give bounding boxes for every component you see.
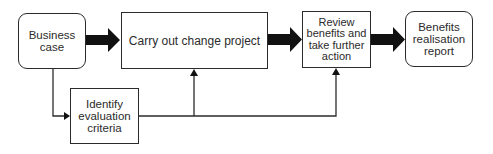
node-business-case-label: Business case [29, 29, 76, 53]
node-benefits-report-label: Benefits realisation report [413, 21, 465, 57]
line-business-to-identify [53, 69, 64, 116]
node-carry-out-label: Carry out change project [129, 35, 260, 47]
line-identify-to-review [139, 75, 336, 116]
arrowhead-into-carry [190, 69, 198, 76]
thick-arrow-carry-to-review [268, 27, 302, 52]
node-business-case: Business case [18, 13, 86, 69]
node-carry-out-change-project: Carry out change project [121, 12, 268, 69]
node-benefits-realisation-report: Benefits realisation report [405, 11, 473, 67]
node-review-benefits: Review benefits and take further action [302, 11, 371, 68]
thick-arrow-review-to-report [371, 27, 405, 52]
node-identify-label: Identify evaluation criteria [78, 98, 130, 134]
node-review-label: Review benefits and take further action [307, 17, 367, 63]
node-identify-evaluation-criteria: Identify evaluation criteria [70, 88, 139, 144]
arrowhead-into-review [332, 68, 340, 75]
thick-arrow-business-to-carry [86, 28, 120, 52]
